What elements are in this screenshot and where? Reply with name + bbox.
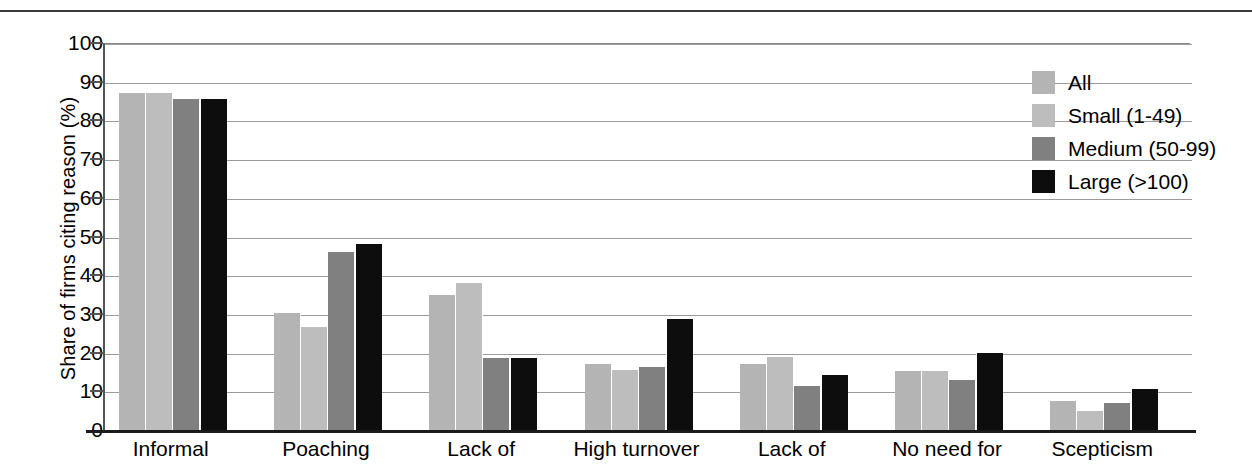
bar [274, 313, 301, 430]
bar [173, 99, 200, 430]
legend-item[interactable]: Large (>100) [1032, 165, 1247, 198]
bar [510, 358, 537, 430]
bar [200, 99, 227, 430]
legend-swatch-icon [1032, 71, 1055, 94]
x-axis-category-label: High turnover [559, 437, 714, 461]
bar-group [119, 43, 227, 430]
bar-group [740, 43, 848, 430]
bar [429, 295, 456, 430]
legend-item[interactable]: Medium (50-99) [1032, 132, 1247, 165]
bar [456, 283, 483, 430]
legend-label: Small (1-49) [1068, 105, 1182, 126]
bar [976, 353, 1003, 430]
legend-swatch-icon [1032, 137, 1055, 160]
x-axis-category-label: Lack of [404, 437, 559, 461]
y-tick-mark-70 [90, 158, 103, 160]
x-axis-category-label: Poaching [248, 437, 403, 461]
y-tick-mark-90 [90, 81, 103, 83]
legend-item[interactable]: Small (1-49) [1032, 99, 1247, 132]
legend-label: Medium (50-99) [1068, 138, 1216, 159]
legend-label: All [1068, 72, 1091, 93]
y-tick-mark-80 [90, 119, 103, 121]
y-tick-mark-10 [90, 390, 103, 392]
bar [1131, 389, 1158, 430]
chart-legend: AllSmall (1-49)Medium (50-99)Large (>100… [1032, 66, 1247, 198]
legend-swatch-icon [1032, 170, 1055, 193]
bar-group [585, 43, 693, 430]
bar [483, 358, 510, 430]
legend-swatch-icon [1032, 104, 1055, 127]
y-axis-ticks: 0102030405060708090100 [0, 0, 103, 467]
bar [119, 93, 146, 430]
bar [355, 244, 382, 430]
y-tick-mark-50 [90, 236, 103, 238]
plot-area [103, 43, 1190, 430]
y-tick-mark-100 [90, 42, 103, 44]
bar [949, 380, 976, 430]
bar [666, 319, 693, 430]
bar [301, 327, 328, 430]
bar [146, 93, 173, 430]
bar-group [895, 43, 1003, 430]
bar [794, 386, 821, 431]
bar [328, 252, 355, 430]
bar [1050, 401, 1077, 430]
bar [585, 364, 612, 430]
bar [612, 370, 639, 430]
bar-chart-figure: Share of firms citing reason (%) 0102030… [0, 0, 1252, 467]
x-axis-line [86, 430, 1196, 433]
bar [740, 364, 767, 430]
bar [821, 375, 848, 430]
x-axis-category-label: Scepticism [1025, 437, 1180, 461]
legend-item[interactable]: All [1032, 66, 1247, 99]
bar-group [429, 43, 537, 430]
y-tick-mark-40 [90, 274, 103, 276]
bar [895, 371, 922, 430]
bar [922, 371, 949, 430]
bar [767, 357, 794, 430]
x-axis-category-label: Lack of [714, 437, 869, 461]
bar [1077, 411, 1104, 430]
bar [639, 367, 666, 430]
y-tick-mark-20 [90, 352, 103, 354]
x-axis-category-label: No need for [869, 437, 1024, 461]
x-axis-category-label: Informal [93, 437, 248, 461]
y-tick-mark-60 [90, 197, 103, 199]
y-tick-mark-30 [90, 313, 103, 315]
bar-group [274, 43, 382, 430]
legend-label: Large (>100) [1068, 171, 1189, 192]
bar [1104, 403, 1131, 430]
